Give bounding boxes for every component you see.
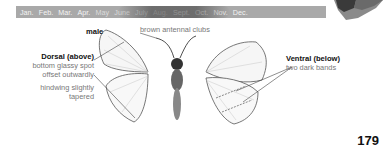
antenna-label: brown antennal clubs: [140, 26, 210, 35]
dorsal-note-spot-line2: offset outwardly: [6, 71, 94, 80]
ventral-note-bands: two dark bands: [286, 64, 336, 73]
sex-label: male: [86, 28, 103, 37]
dorsal-note-hindwing-line2: tapered: [6, 93, 94, 102]
page-number: 179: [357, 133, 379, 148]
